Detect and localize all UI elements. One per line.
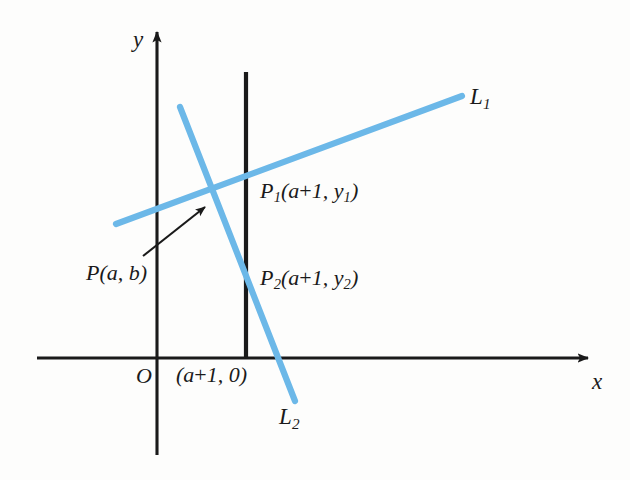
x-axis-label: x xyxy=(592,370,602,393)
point-P1-operator: + xyxy=(299,178,311,203)
point-P-name: P xyxy=(86,260,99,285)
point-P1-name: P xyxy=(260,178,273,203)
point-P1-label: P1(a+1, y1) xyxy=(260,180,358,205)
line-L1-subscript: 1 xyxy=(483,95,491,112)
geometry-figure: y x O (a+1, 0) P(a, b) P1(a+1, y1) P2(a+… xyxy=(0,0,630,480)
point-P1-var-subscript: 1 xyxy=(343,189,350,205)
point-P2-args-mid: 1, xyxy=(312,265,334,290)
point-P2-var: y xyxy=(334,265,344,290)
point-P-label: P(a, b) xyxy=(86,262,147,284)
point-P1-args-close: ) xyxy=(351,178,358,203)
y-axis-label: y xyxy=(133,28,143,51)
foot-label-operator: + xyxy=(194,362,206,387)
point-P2-var-subscript: 2 xyxy=(343,276,350,292)
line-L2-subscript: 2 xyxy=(292,415,300,432)
line-L2-name: L xyxy=(279,404,292,429)
point-P2-label: P2(a+1, y2) xyxy=(260,267,358,292)
point-P2-subscript: 2 xyxy=(273,276,280,292)
point-P1-args-open: (a xyxy=(281,178,299,203)
origin-label: O xyxy=(136,365,152,387)
point-P1-subscript: 1 xyxy=(273,189,280,205)
p-leader-arrow xyxy=(143,207,205,256)
foot-label-open: (a xyxy=(176,362,194,387)
point-P-args: (a, b) xyxy=(99,260,147,285)
point-P1-args-mid: 1, xyxy=(312,178,334,203)
point-P2-operator: + xyxy=(299,265,311,290)
point-P2-args-close: ) xyxy=(351,265,358,290)
line-L2-label: L2 xyxy=(279,405,300,431)
point-P2-args-open: (a xyxy=(281,265,299,290)
line-L1-label: L1 xyxy=(470,85,491,111)
point-P1-var: y xyxy=(334,178,344,203)
figure-canvas xyxy=(0,0,630,480)
point-P2-name: P xyxy=(260,265,273,290)
foot-label-value: 1, 0) xyxy=(207,362,247,387)
vertical-line-foot-label: (a+1, 0) xyxy=(176,364,247,386)
line-L1-name: L xyxy=(470,84,483,109)
